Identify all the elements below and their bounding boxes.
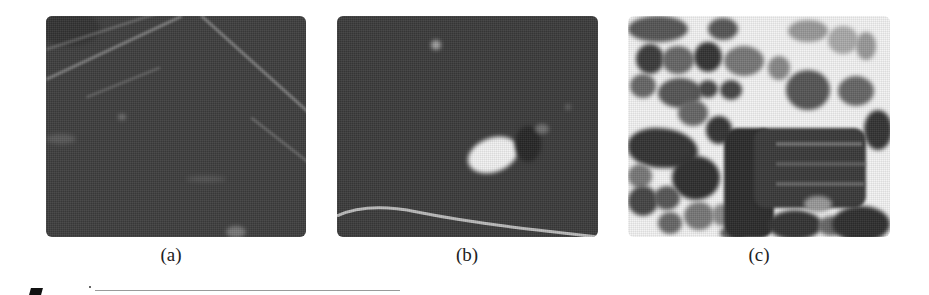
light-spot: [226, 226, 246, 237]
light-streak: [85, 66, 160, 99]
dark-blob: [636, 44, 664, 74]
curved-line: [337, 16, 598, 237]
dark-rect-structure: [754, 128, 866, 208]
dark-blob: [654, 186, 680, 210]
dark-blob: [698, 80, 718, 98]
light-streak: [200, 16, 306, 134]
dark-blob: [724, 46, 764, 76]
scan-artifact-line: [95, 290, 400, 291]
dark-blob: [856, 32, 876, 60]
noise-overlay: [46, 16, 306, 237]
light-spot: [186, 176, 226, 182]
rect-stripe: [776, 142, 862, 146]
dark-blob: [662, 46, 694, 74]
dark-blob: [720, 80, 742, 100]
dark-blob: [628, 164, 652, 188]
dark-blob: [804, 196, 832, 212]
dark-blob: [630, 74, 656, 98]
dark-blob: [694, 42, 722, 72]
dark-blob: [658, 212, 682, 234]
scan-artifact-dot: [89, 286, 91, 288]
light-spot: [46, 134, 76, 144]
dark-blob: [828, 26, 858, 54]
figure-panel-c: [628, 16, 890, 237]
scan-artifact-mark: [29, 288, 43, 295]
caption-b: (b): [437, 244, 497, 266]
rect-stripe: [776, 182, 864, 186]
dark-blob: [864, 110, 890, 150]
caption-a: (a): [141, 244, 201, 266]
light-spot: [118, 114, 126, 120]
dark-blob: [768, 210, 822, 237]
caption-c: (c): [729, 244, 789, 266]
dark-blob: [708, 18, 738, 40]
dark-blob: [684, 202, 714, 230]
dark-blob: [832, 206, 890, 237]
dark-blob: [788, 20, 828, 42]
dark-blob: [768, 56, 790, 80]
dark-blob: [678, 100, 708, 126]
figure-panel-b: [337, 16, 598, 237]
dark-blob: [786, 70, 830, 110]
dark-blob: [628, 16, 688, 42]
dark-blob: [838, 76, 874, 106]
light-streak: [250, 116, 306, 168]
figure-panel-a: [46, 16, 306, 237]
rect-stripe: [776, 162, 866, 166]
